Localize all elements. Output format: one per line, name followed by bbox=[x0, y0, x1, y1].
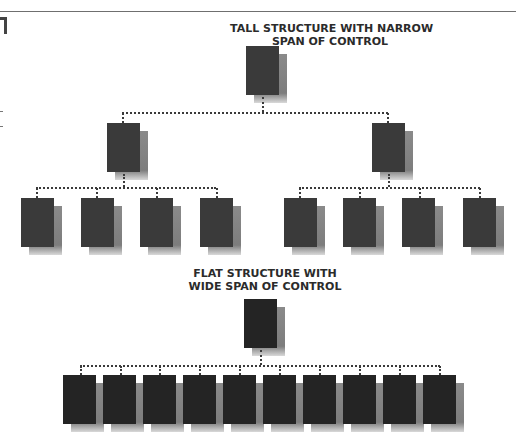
connector bbox=[122, 112, 388, 114]
connector bbox=[387, 113, 389, 123]
connector bbox=[199, 366, 201, 375]
connector bbox=[122, 113, 124, 123]
connector bbox=[388, 174, 390, 187]
flat-structure-title: FLAT STRUCTURE WITH WIDE SPAN OF CONTROL bbox=[165, 267, 365, 293]
org-box-employee bbox=[140, 198, 173, 247]
org-box-employee bbox=[303, 375, 336, 424]
connector bbox=[80, 365, 440, 367]
org-box-employee bbox=[343, 198, 376, 247]
org-box-employee bbox=[21, 198, 54, 247]
org-box-manager bbox=[107, 123, 140, 172]
org-box-employee bbox=[343, 375, 376, 424]
connector bbox=[399, 366, 401, 375]
org-box-employee bbox=[402, 198, 435, 247]
title-line: FLAT STRUCTURE WITH bbox=[165, 267, 365, 280]
org-box-top bbox=[244, 299, 277, 348]
org-box-employee bbox=[383, 375, 416, 424]
title-line: WIDE SPAN OF CONTROL bbox=[165, 280, 365, 293]
connector bbox=[159, 366, 161, 375]
connector bbox=[479, 188, 481, 198]
connector bbox=[216, 188, 218, 198]
org-box-employee bbox=[423, 375, 456, 424]
org-box-employee bbox=[81, 198, 114, 247]
connector bbox=[299, 188, 301, 198]
connector bbox=[319, 366, 321, 375]
connector bbox=[156, 188, 158, 198]
org-box-top bbox=[246, 46, 279, 95]
org-box-employee bbox=[183, 375, 216, 424]
margin-mark bbox=[0, 126, 3, 127]
top-rule bbox=[0, 11, 516, 12]
connector bbox=[439, 366, 441, 375]
connector bbox=[120, 366, 122, 375]
connector bbox=[279, 366, 281, 375]
org-box-employee bbox=[263, 375, 296, 424]
connector bbox=[359, 188, 361, 198]
org-box-employee bbox=[284, 198, 317, 247]
org-box-employee bbox=[223, 375, 256, 424]
connector bbox=[260, 350, 262, 365]
margin-mark bbox=[0, 111, 3, 112]
tall-structure-title: TALL STRUCTURE WITH NARROW SPAN OF CONTR… bbox=[230, 22, 430, 48]
org-box-employee bbox=[143, 375, 176, 424]
connector bbox=[80, 366, 82, 375]
connector bbox=[123, 174, 125, 187]
connector bbox=[419, 188, 421, 198]
org-box-manager bbox=[372, 123, 405, 172]
org-box-employee bbox=[63, 375, 96, 424]
connector bbox=[299, 187, 480, 189]
connector bbox=[96, 188, 98, 198]
connector bbox=[262, 97, 264, 112]
org-box-employee bbox=[463, 198, 496, 247]
connector bbox=[359, 366, 361, 375]
title-line: TALL STRUCTURE WITH NARROW bbox=[230, 22, 430, 35]
connector bbox=[239, 366, 241, 375]
connector bbox=[36, 187, 216, 189]
connector bbox=[36, 188, 38, 198]
org-box-employee bbox=[103, 375, 136, 424]
cropped-heading-glyph bbox=[0, 17, 7, 34]
org-box-employee bbox=[200, 198, 233, 247]
